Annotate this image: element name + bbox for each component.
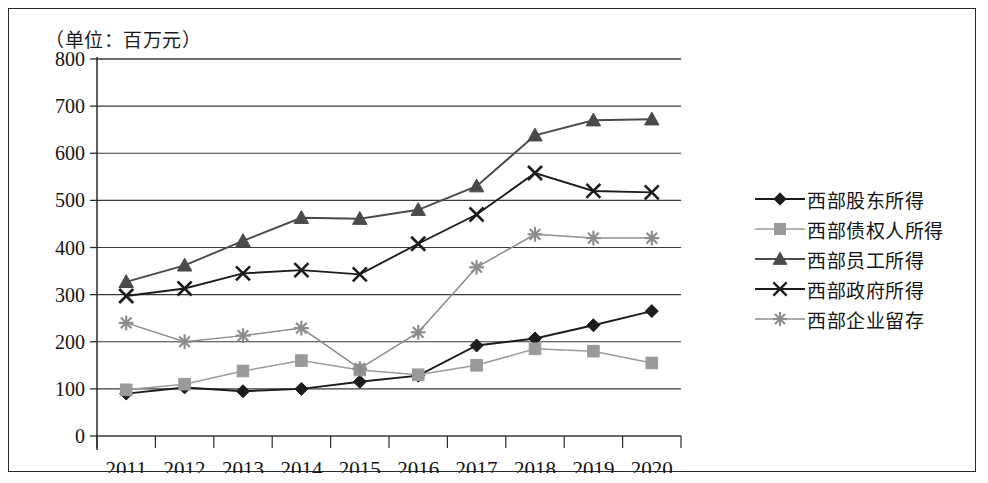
data-point-square-marker <box>412 369 424 381</box>
y-axis-tick-label: 600 <box>55 142 85 164</box>
x-axis-tick-label: 2015 <box>339 457 381 473</box>
data-point-x-marker <box>528 166 542 180</box>
x-axis-tick-label: 2020 <box>631 457 673 473</box>
legend-key-asterisk-icon <box>753 309 807 329</box>
data-point-square-marker <box>120 384 132 396</box>
data-point-asterisk-marker <box>177 334 192 349</box>
data-point-diamond-marker <box>587 319 600 332</box>
data-point-asterisk-marker <box>644 231 659 246</box>
series-2-markers <box>119 112 659 287</box>
data-point-asterisk-marker <box>411 325 426 340</box>
data-point-square-marker <box>774 223 785 234</box>
legend-item-2[interactable]: 西部员工所得 <box>753 244 968 274</box>
x-axis-tick-label: 2018 <box>514 457 556 473</box>
series-0 <box>126 311 652 393</box>
data-point-diamond-marker <box>237 385 250 398</box>
x-axis-tick-label: 2017 <box>456 457 498 473</box>
data-point-diamond-marker <box>353 375 366 388</box>
legend-item-0[interactable]: 西部股东所得 <box>753 184 968 214</box>
y-axis-tick-label: 200 <box>55 331 85 353</box>
data-point-x-marker <box>411 237 425 251</box>
data-point-square-marker <box>646 357 658 369</box>
chart-legend: 西部股东所得西部债权人所得西部员工所得西部政府所得西部企业留存 <box>753 184 968 334</box>
y-axis-tick-label: 0 <box>75 425 85 447</box>
y-axis-tick-label: 700 <box>55 95 85 117</box>
series-3 <box>126 173 652 296</box>
chart-figure: （单位：百万元） 0100200300400500600700800201120… <box>8 8 976 472</box>
data-point-asterisk-marker <box>352 361 367 376</box>
legend-label-4: 西部企业留存 <box>807 306 924 333</box>
data-point-square-marker <box>588 345 600 357</box>
data-point-x-marker <box>470 208 484 222</box>
legend-item-1[interactable]: 西部债权人所得 <box>753 214 968 244</box>
y-axis-tick-label: 100 <box>55 378 85 400</box>
data-point-asterisk-marker <box>586 231 601 246</box>
data-point-triangle-marker <box>411 203 425 216</box>
legend-item-3[interactable]: 西部政府所得 <box>753 274 968 304</box>
data-point-triangle-marker <box>177 258 191 271</box>
x-axis-tick-label: 2012 <box>164 457 206 473</box>
legend-key-x-icon <box>753 279 807 299</box>
data-point-asterisk-marker <box>294 321 309 336</box>
data-point-diamond-marker <box>774 193 786 205</box>
data-point-asterisk-marker <box>236 328 251 343</box>
data-point-asterisk-marker <box>469 260 484 275</box>
data-point-diamond-marker <box>645 305 658 318</box>
data-point-square-marker <box>179 378 191 390</box>
legend-item-4[interactable]: 西部企业留存 <box>753 304 968 334</box>
data-point-diamond-marker <box>470 339 483 352</box>
series-0-markers <box>120 305 659 400</box>
series-4-markers <box>119 227 659 376</box>
y-axis-tick-label: 800 <box>55 48 85 70</box>
legend-label-0: 西部股东所得 <box>807 186 924 213</box>
y-axis-tick-label: 400 <box>55 237 85 259</box>
x-axis-tick-label: 2019 <box>572 457 614 473</box>
y-axis-tick-label: 300 <box>55 284 85 306</box>
legend-label-1: 西部债权人所得 <box>807 216 944 243</box>
data-point-asterisk-marker <box>528 227 543 242</box>
y-axis-tick-label: 500 <box>55 189 85 211</box>
data-point-square-marker <box>237 365 249 377</box>
x-axis-tick-label: 2014 <box>280 457 323 473</box>
series-1 <box>126 349 652 390</box>
x-axis-tick-label: 2013 <box>222 457 264 473</box>
legend-key-square-icon <box>753 219 807 239</box>
legend-label-3: 西部政府所得 <box>807 276 924 303</box>
data-point-asterisk-marker <box>773 312 787 326</box>
series-4 <box>126 234 652 368</box>
data-point-triangle-marker <box>236 234 250 247</box>
legend-label-2: 西部员工所得 <box>807 246 924 273</box>
data-point-square-marker <box>471 360 483 372</box>
data-point-square-marker <box>296 355 308 367</box>
data-point-asterisk-marker <box>119 316 134 331</box>
legend-key-triangle-icon <box>753 249 807 269</box>
x-axis-tick-label: 2011 <box>106 457 147 473</box>
legend-key-diamond-icon <box>753 189 807 209</box>
x-axis-tick-label: 2016 <box>397 457 439 473</box>
data-point-diamond-marker <box>295 382 308 395</box>
data-point-square-marker <box>529 343 541 355</box>
